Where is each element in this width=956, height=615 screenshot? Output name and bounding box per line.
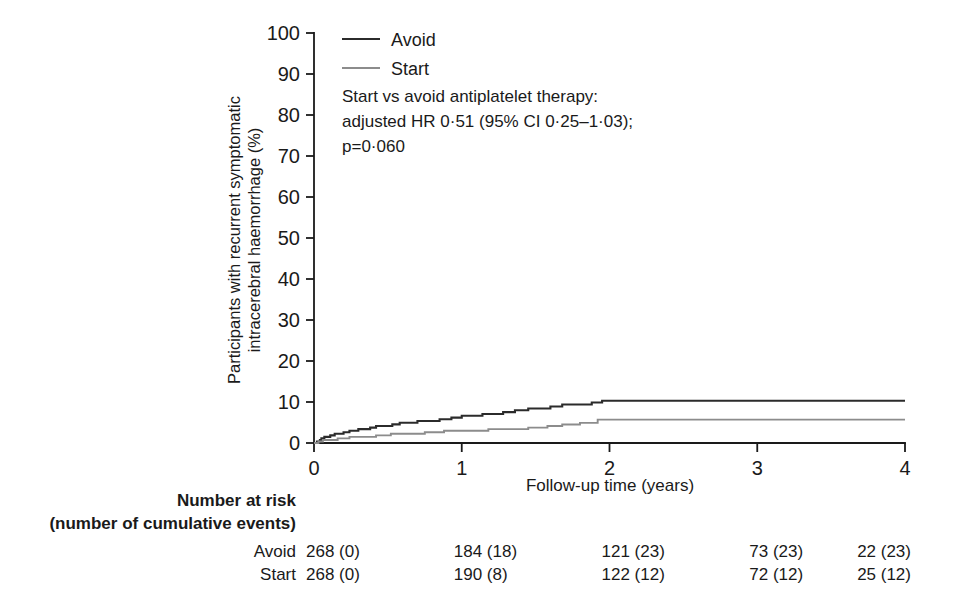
y-tick-label-20: 20 bbox=[278, 350, 300, 372]
x-tick-label-4: 4 bbox=[899, 457, 910, 479]
y-tick-label-10: 10 bbox=[278, 391, 300, 413]
x-tick-label-1: 1 bbox=[456, 457, 467, 479]
risk-cell: 72 (12) bbox=[749, 565, 803, 584]
risk-row-label-start: Start bbox=[260, 565, 296, 584]
risk-cell: 22 (23) bbox=[857, 542, 911, 561]
risk-cell: 268 (0) bbox=[306, 565, 360, 584]
x-tick-label-3: 3 bbox=[752, 457, 763, 479]
risk-cell: 73 (23) bbox=[749, 542, 803, 561]
y-tick-label-40: 40 bbox=[278, 268, 300, 290]
risk-table-heading-line2: (number of cumulative events) bbox=[49, 514, 296, 533]
risk-cell: 25 (12) bbox=[857, 565, 911, 584]
y-tick-label-60: 60 bbox=[278, 186, 300, 208]
risk-cell: 268 (0) bbox=[306, 542, 360, 561]
y-tick-label-80: 80 bbox=[278, 104, 300, 126]
risk-cell: 190 (8) bbox=[454, 565, 508, 584]
y-tick-label-90: 90 bbox=[278, 63, 300, 85]
x-tick-label-0: 0 bbox=[308, 457, 319, 479]
risk-cell: 122 (12) bbox=[602, 565, 665, 584]
y-tick-label-100: 100 bbox=[267, 22, 300, 44]
annotation-line-1: Start vs avoid antiplatelet therapy: bbox=[342, 87, 598, 106]
chart-canvas: Participants with recurrent symptomatic … bbox=[0, 0, 956, 615]
y-tick-label-50: 50 bbox=[278, 227, 300, 249]
y-tick-label-70: 70 bbox=[278, 145, 300, 167]
x-axis-label: Follow-up time (years) bbox=[526, 476, 694, 495]
annotation-line-3: p=0·060 bbox=[342, 137, 405, 156]
annotation-line-2: adjusted HR 0·51 (95% CI 0·25–1·03); bbox=[342, 112, 633, 131]
risk-table-heading-line1: Number at risk bbox=[177, 491, 297, 510]
risk-row-label-avoid: Avoid bbox=[254, 542, 296, 561]
legend-label-avoid: Avoid bbox=[391, 30, 436, 50]
y-axis-label-line2: intracerebral haemorrhage (%) bbox=[245, 128, 263, 353]
risk-cell: 184 (18) bbox=[454, 542, 517, 561]
y-axis-label-line1: Participants with recurrent symptomatic bbox=[225, 96, 243, 384]
kaplan-meier-figure: Participants with recurrent symptomatic … bbox=[0, 0, 956, 615]
y-tick-label-0: 0 bbox=[289, 432, 300, 454]
risk-cell: 121 (23) bbox=[602, 542, 665, 561]
y-tick-label-30: 30 bbox=[278, 309, 300, 331]
legend-label-start: Start bbox=[391, 59, 429, 79]
